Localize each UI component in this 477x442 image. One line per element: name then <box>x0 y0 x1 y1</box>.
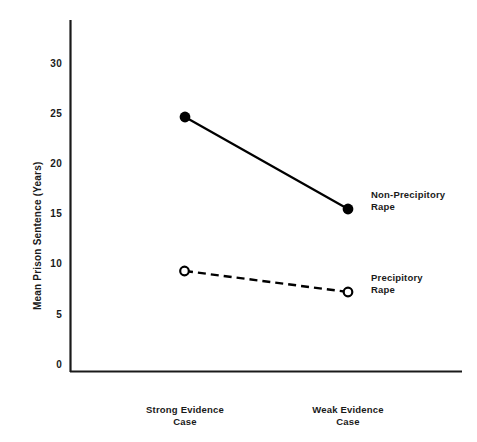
x-category-line-2: Case <box>278 416 418 428</box>
series-2-point-strong-evidence <box>180 267 189 276</box>
y-tick-label-20: 20 <box>36 159 62 169</box>
series-precipitory-rape <box>180 267 352 297</box>
y-tick-label-5: 5 <box>36 310 62 320</box>
x-category-line-1: Strong Evidence <box>115 404 255 416</box>
y-tick-label-10: 10 <box>36 259 62 269</box>
y-axis-title: Mean Prison Sentence (Years) <box>32 90 43 310</box>
x-category-label-weak-evidence: Weak Evidence Case <box>278 404 418 428</box>
series-2-line-segment <box>185 271 348 292</box>
series-label-non-precipitory-rape: Non-Precipitory Rape <box>371 189 445 213</box>
y-tick-label-15: 15 <box>36 209 62 219</box>
x-category-line-2: Case <box>115 416 255 428</box>
chart-figure: Mean Prison Sentence (Years) 0 5 10 15 2… <box>0 0 477 442</box>
series-label-precipitory-rape: Precipitory Rape <box>371 272 423 296</box>
series-1-point-weak-evidence <box>343 204 354 215</box>
y-tick-label-0: 0 <box>36 360 62 370</box>
series-label-line-2: Rape <box>371 201 445 213</box>
series-1-point-strong-evidence <box>180 112 191 123</box>
y-tick-label-25: 25 <box>36 109 62 119</box>
series-2-point-weak-evidence <box>344 288 353 297</box>
series-label-line-1: Precipitory <box>371 272 423 284</box>
series-non-precipitory-rape <box>180 112 354 215</box>
x-category-label-strong-evidence: Strong Evidence Case <box>115 404 255 428</box>
plot-area <box>0 0 477 442</box>
series-label-line-1: Non-Precipitory <box>371 189 445 201</box>
y-tick-label-30: 30 <box>36 59 62 69</box>
series-label-line-2: Rape <box>371 284 423 296</box>
x-category-line-1: Weak Evidence <box>278 404 418 416</box>
series-1-line-segment <box>185 117 348 209</box>
